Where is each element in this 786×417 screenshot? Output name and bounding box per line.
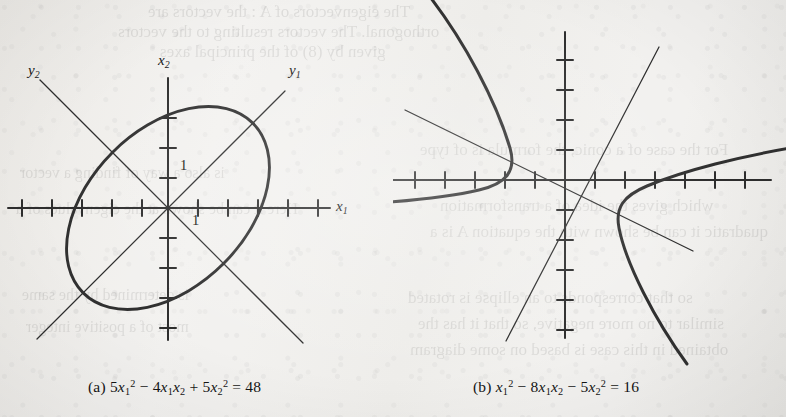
- x2-tick-label-1: 1: [180, 157, 187, 174]
- rotated-axis-y1-label: y1: [289, 62, 301, 80]
- rotated-axis-y2-line: [506, 47, 659, 341]
- x1-tick-label-1: 1: [192, 212, 199, 229]
- x2-axis-label: x2: [158, 52, 170, 70]
- caption-a-label: (a): [88, 378, 106, 395]
- panel-b-hyperbola: x1 x2 y2 y1 1 1: [393, 0, 786, 417]
- panel-a-svg: [0, 0, 393, 417]
- x1-axis-label: x1x1: [336, 198, 348, 216]
- rotated-axis-y2-line: [40, 80, 303, 343]
- caption-b-equation: x12 − 8x1x2 − 5x22 = 16: [496, 378, 639, 395]
- rotated-axis-y2-label: y2: [28, 62, 40, 80]
- hyperbola-branch-upper-left: [393, 0, 512, 203]
- rotated-axis-y1-line: [37, 91, 285, 339]
- caption-b-label: (b): [473, 378, 492, 395]
- panel-b-svg: [393, 0, 786, 417]
- panel-a-ellipse: x1x1 x2 y1 y2 1 1: [0, 0, 393, 417]
- caption-a-equation: 5x12 − 4x1x2 + 5x22 = 48: [110, 378, 261, 395]
- caption-panel-a: (a) 5x12 − 4x1x2 + 5x22 = 48: [88, 378, 261, 397]
- caption-panel-b: (b) x12 − 8x1x2 − 5x22 = 16: [473, 378, 639, 397]
